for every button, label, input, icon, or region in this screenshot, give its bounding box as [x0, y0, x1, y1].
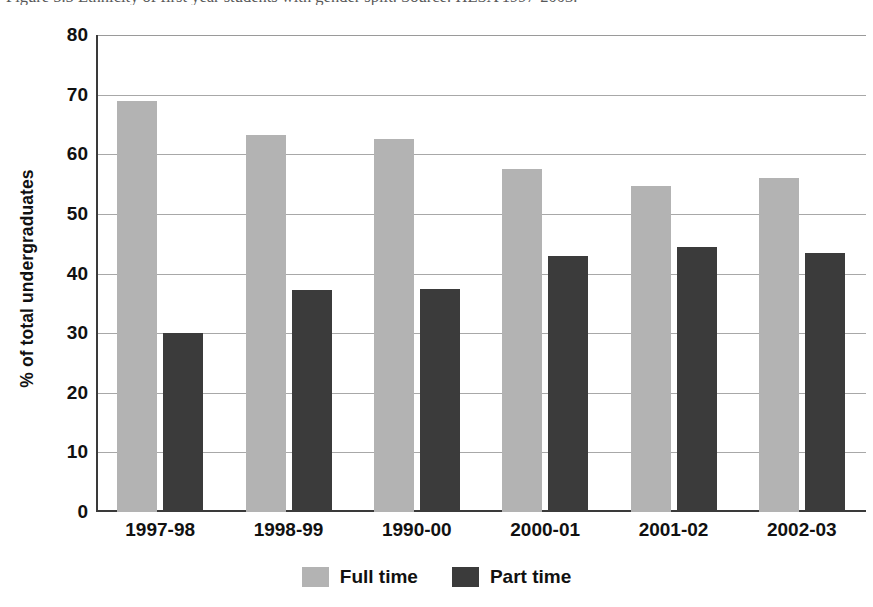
- bar-full-time: [117, 101, 157, 512]
- legend-swatch-icon: [452, 567, 479, 587]
- y-axis-tick-label: 0: [14, 501, 88, 523]
- bar-full-time: [246, 135, 286, 512]
- x-axis-tick-label: 2001-02: [639, 519, 709, 541]
- y-axis-tick-label: 80: [14, 24, 88, 46]
- legend-label: Full time: [340, 566, 418, 588]
- bar-chart: % of total undergraduates 01020304050607…: [0, 0, 873, 607]
- bar-full-time: [374, 139, 414, 512]
- y-axis-tick-label: 50: [14, 203, 88, 225]
- bar-part-time: [292, 290, 332, 512]
- bar-part-time: [163, 333, 203, 512]
- y-axis-tick-label: 70: [14, 84, 88, 106]
- x-axis-tick-labels: 1997-981998-991990-002000-012001-022002-…: [96, 519, 866, 549]
- x-axis-tick-label: 1990-00: [382, 519, 452, 541]
- y-axis-tick-label: 10: [14, 441, 88, 463]
- bar-part-time: [805, 253, 845, 512]
- legend-item[interactable]: Full time: [302, 566, 418, 588]
- bars-layer: [96, 35, 866, 512]
- x-axis-tick-label: 2002-03: [767, 519, 837, 541]
- bar-full-time: [631, 186, 671, 512]
- bar-full-time: [502, 169, 542, 512]
- y-axis-tick-label: 60: [14, 143, 88, 165]
- legend-label: Part time: [490, 566, 571, 588]
- y-axis-tick-label: 30: [14, 322, 88, 344]
- bar-part-time: [548, 256, 588, 512]
- x-axis-tick-label: 2000-01: [510, 519, 580, 541]
- bar-full-time: [759, 178, 799, 512]
- y-axis-tick-label: 40: [14, 263, 88, 285]
- x-axis-tick-label: 1997-98: [125, 519, 195, 541]
- y-axis-tick-labels: 01020304050607080: [0, 35, 88, 512]
- bar-part-time: [420, 289, 460, 512]
- x-axis-tick-label: 1998-99: [254, 519, 324, 541]
- bar-part-time: [677, 247, 717, 512]
- legend-swatch-icon: [302, 567, 329, 587]
- chart-legend: Full timePart time: [0, 566, 873, 588]
- legend-item[interactable]: Part time: [452, 566, 571, 588]
- y-axis-tick-label: 20: [14, 382, 88, 404]
